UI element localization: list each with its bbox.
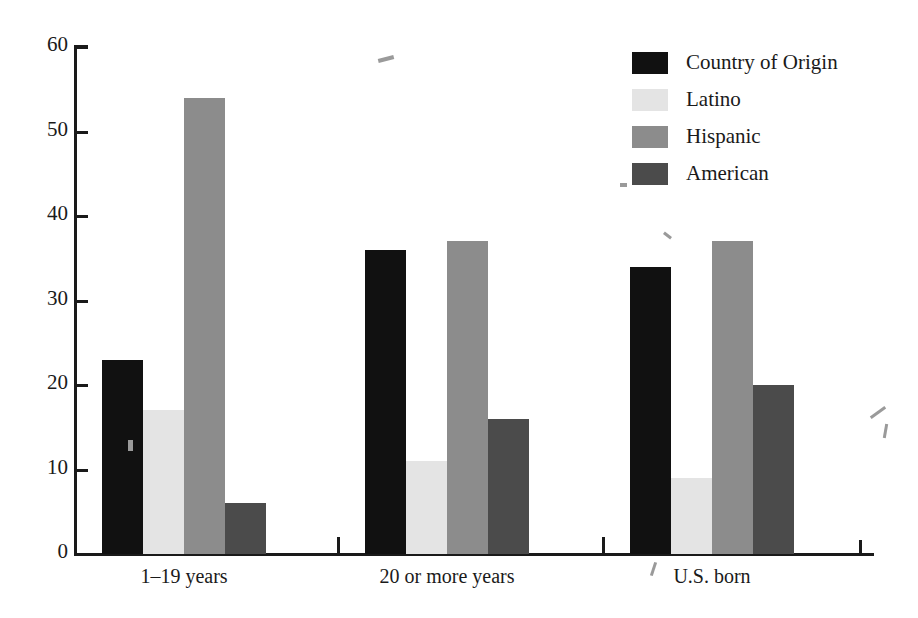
bar [488, 419, 529, 554]
scan-artifact [870, 406, 886, 419]
bar [447, 241, 488, 554]
y-axis-tick-label: 20 [47, 372, 68, 393]
legend-item-label: Hispanic [686, 126, 761, 147]
bar [671, 478, 712, 554]
legend-item-label: American [686, 163, 769, 184]
y-axis-tick-label: 0 [58, 541, 69, 562]
bar [753, 385, 794, 554]
y-axis-tick-label: 10 [47, 457, 68, 478]
bar [712, 241, 753, 554]
y-axis-tick-label: 60 [47, 34, 68, 55]
x-axis-group-label: 20 or more years [365, 564, 529, 588]
legend-item[interactable]: Hispanic [632, 118, 838, 155]
legend-item[interactable]: Latino [632, 81, 838, 118]
legend-item-label: Latino [686, 89, 741, 110]
bar [143, 410, 184, 554]
x-axis-group-label: U.S. born [630, 564, 794, 588]
legend-item-label: Country of Origin [686, 52, 838, 73]
legend-swatch-icon [632, 89, 668, 111]
y-axis-tick-label: 30 [47, 288, 68, 309]
bar-chart: 6050403020100 1–19 years20 or more years… [0, 0, 918, 618]
legend-swatch-icon [632, 126, 668, 148]
x-axis-group-label: 1–19 years [102, 564, 266, 588]
bar [184, 98, 225, 554]
bar [365, 250, 406, 554]
chart-legend: Country of OriginLatinoHispanicAmerican [632, 44, 838, 192]
bar [406, 461, 447, 554]
legend-swatch-icon [632, 163, 668, 185]
legend-swatch-icon [632, 52, 668, 74]
bar [102, 360, 143, 554]
bar [630, 267, 671, 554]
legend-item[interactable]: Country of Origin [632, 44, 838, 81]
y-axis-tick-label: 40 [47, 203, 68, 224]
y-axis-tick-label: 50 [47, 119, 68, 140]
scan-artifact [883, 424, 888, 438]
bar [225, 503, 266, 554]
legend-item[interactable]: American [632, 155, 838, 192]
